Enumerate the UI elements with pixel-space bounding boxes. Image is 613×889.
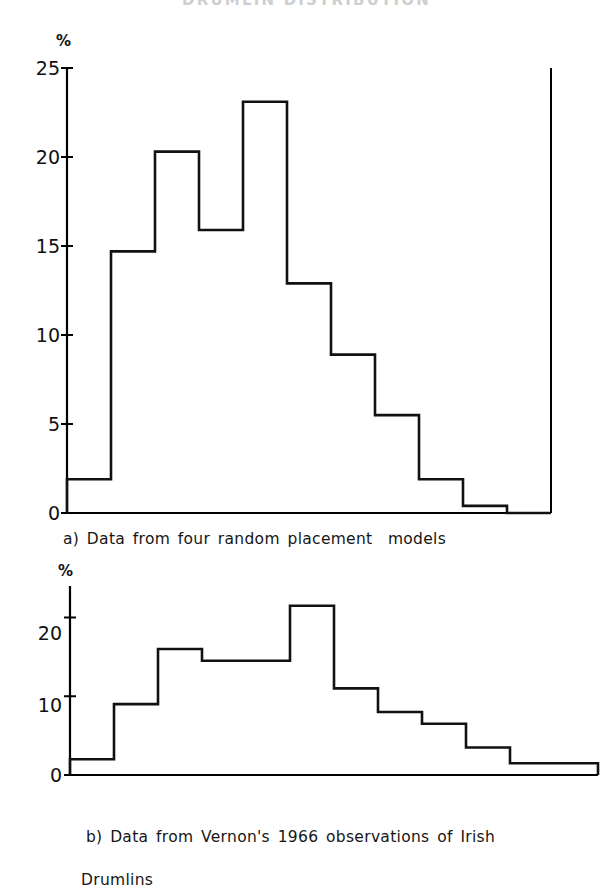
figure-a-caption: a) Data from four random placement model… <box>63 529 446 550</box>
figure-a-y-tick-label-25: 25 <box>12 57 60 79</box>
figure-a-y-tick-label-20: 20 <box>12 146 60 168</box>
figure-b-y-tick-label-20: 20 <box>14 622 62 644</box>
figure-a-y-tick-label-5: 5 <box>12 413 60 435</box>
figure-b-svg <box>0 560 613 800</box>
figure-a-svg <box>0 24 613 529</box>
figure-b-y-axis-unit: % <box>58 562 73 580</box>
figure-a-y-tick-label-15: 15 <box>12 235 60 257</box>
figure-b-caption-line2: Drumlins <box>55 870 495 889</box>
figure-b: % 20 10 0 <box>0 560 613 800</box>
figure-a-y-tick-label-10: 10 <box>12 324 60 346</box>
figure-a-y-tick-label-0: 0 <box>12 502 60 524</box>
figure-a: % 25 20 15 10 5 0 <box>0 24 613 529</box>
figure-a-plot-area <box>0 24 613 529</box>
figure-a-step-outline <box>67 102 551 513</box>
figure-a-y-axis-unit: % <box>56 32 71 50</box>
running-header: DRUMLIN DISTRIBUTION <box>0 0 613 5</box>
figure-b-caption-line1: b) Data from Vernon's 1966 observations … <box>86 828 495 846</box>
figure-b-y-tick-label-10: 10 <box>14 694 62 716</box>
figure-b-y-tick-label-0: 0 <box>14 764 62 786</box>
figure-b-step-outline <box>70 606 598 775</box>
figure-b-caption: b) Data from Vernon's 1966 observations … <box>55 806 495 889</box>
figure-b-plot-area <box>0 560 613 800</box>
